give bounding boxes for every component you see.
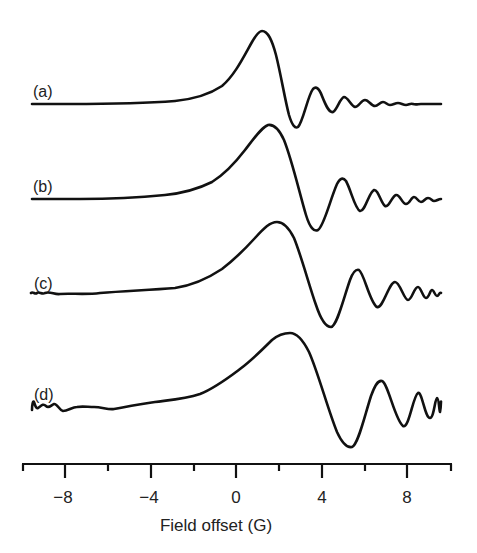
trace-c xyxy=(31,222,441,327)
label-a: (a) xyxy=(33,83,53,100)
x-tick-label: −8 xyxy=(53,488,72,507)
x-axis: −8 −4 0 4 8 Field offset (G) xyxy=(22,464,452,535)
x-tick-label: 0 xyxy=(231,488,240,507)
trace-d xyxy=(32,333,441,447)
label-d: (d) xyxy=(34,386,54,403)
label-b: (b) xyxy=(33,178,53,195)
x-tick-label: 8 xyxy=(402,488,411,507)
x-axis-title: Field offset (G) xyxy=(160,516,272,535)
label-c: (c) xyxy=(34,275,53,292)
trace-a xyxy=(32,31,441,128)
trace-b xyxy=(32,125,441,231)
epr-spectra-figure: (a) (b) (c) (d) −8 −4 0 4 8 F xyxy=(0,0,477,553)
x-tick-label: −4 xyxy=(139,488,158,507)
x-tick-label: 4 xyxy=(317,488,326,507)
chart-canvas: (a) (b) (c) (d) −8 −4 0 4 8 F xyxy=(0,0,477,553)
